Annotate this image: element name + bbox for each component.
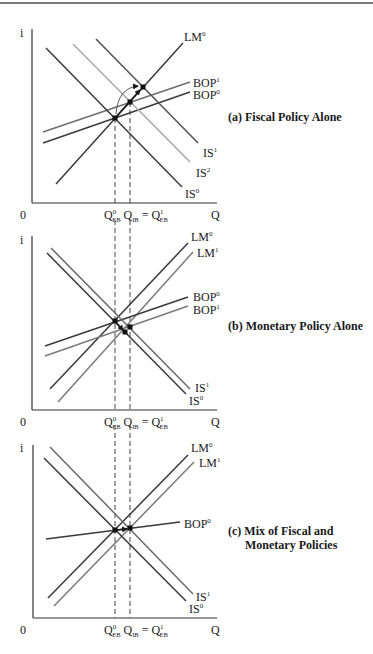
is1-label: IS1 xyxy=(203,146,218,160)
equilibrium-point xyxy=(113,319,118,324)
lm1-curve xyxy=(54,462,194,606)
q-equilibrium-labels: Q0EB QIB = Q1EB xyxy=(104,623,169,638)
panel-title-b: (b) Monetary Policy Alone xyxy=(228,319,364,333)
lm0-curve xyxy=(48,455,188,598)
equilibrium-point xyxy=(113,528,118,533)
is0-label: IS0 xyxy=(185,187,200,201)
panel-a: i0QLM0BOP1BOP0IS1IS2IS0Q0EB QIB = Q1EB(a… xyxy=(20,26,342,223)
panel-b: i0QLM0LM1BOP0BOP1IS1IS0Q0EB QIB = Q1EB(b… xyxy=(20,220,364,430)
bop0-label: BOP0 xyxy=(184,517,211,531)
lm1-label: LM1 xyxy=(199,456,221,470)
q-equilibrium-labels: Q0EB QIB = Q1EB xyxy=(104,415,169,430)
lm1-label: LM1 xyxy=(197,246,219,260)
lm0-label: LM0 xyxy=(191,230,213,244)
is1-curve xyxy=(50,447,193,594)
y-axis-label: i xyxy=(20,26,24,40)
x-axis-label: Q xyxy=(211,623,220,637)
is1-label: IS1 xyxy=(195,381,210,395)
y-axis-label: i xyxy=(20,233,24,247)
lm0-label: LM0 xyxy=(191,441,213,455)
origin-label: 0 xyxy=(20,208,26,222)
is2-label: IS2 xyxy=(196,166,211,180)
bop0-label: BOP0 xyxy=(193,290,220,304)
is1-curve xyxy=(51,248,190,389)
panel-title-a: (a) Fiscal Policy Alone xyxy=(228,110,342,124)
panel-title-c: (c) Mix of Fiscal and xyxy=(228,524,334,538)
is0-label: IS0 xyxy=(189,394,204,408)
panel-c: i0QLM0LM1BOP0IS1IS0Q0EB QIB = Q1EB(c) Mi… xyxy=(20,425,338,638)
equilibrium-point xyxy=(128,526,133,531)
is1-curve xyxy=(96,39,198,143)
equilibrium-point xyxy=(123,330,128,335)
shift-arrow xyxy=(116,529,127,530)
x-axis-label: Q xyxy=(211,208,220,222)
origin-label: 0 xyxy=(20,623,26,637)
equilibrium-point xyxy=(128,325,133,330)
q-equilibrium-labels: Q0EB QIB = Q1EB xyxy=(104,208,169,223)
is-lm-bop-diagram: i0QLM0BOP1BOP0IS1IS2IS0Q0EB QIB = Q1EB(a… xyxy=(0,0,373,654)
x-axis-label: Q xyxy=(211,415,220,429)
equilibrium-point xyxy=(141,85,146,90)
equilibrium-point xyxy=(128,100,133,105)
bop0-label: BOP0 xyxy=(193,88,220,102)
lm0-label: LM0 xyxy=(184,30,206,44)
bop1-label: BOP1 xyxy=(193,303,220,317)
equilibrium-point xyxy=(113,116,118,121)
origin-label: 0 xyxy=(20,415,26,429)
y-axis-label: i xyxy=(20,441,24,455)
is0-label: IS0 xyxy=(189,602,204,616)
panel-title-c: Monetary Policies xyxy=(245,538,338,552)
